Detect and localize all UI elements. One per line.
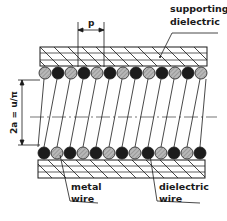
diameter-label: 2a = u/π: [9, 91, 19, 134]
metal-wire: [38, 147, 50, 159]
helix-waveguide-diagram: p 2a = u/π supporting dielectric metal w…: [0, 0, 227, 221]
supporting-dielectric-label-2: dielectric: [170, 16, 220, 27]
metal-wire-label-2: wire: [71, 193, 94, 204]
metal-wire: [194, 147, 206, 159]
metal-wire: [116, 147, 128, 159]
metal-wire: [64, 147, 76, 159]
metal-wire: [52, 67, 64, 79]
metal-wire: [142, 147, 154, 159]
metal-wire-label-1: metal: [71, 181, 102, 192]
metal-wire: [182, 67, 194, 79]
dielectric-wire-label-2: wire: [159, 193, 182, 204]
supporting-dielectric-bottom: [34, 160, 206, 178]
metal-wire: [168, 147, 180, 159]
helix-lines: [38, 79, 206, 147]
diameter-dimension: [18, 80, 40, 145]
dielectric-wire-label-1: dielectric: [159, 181, 209, 192]
supporting-dielectric-top: [26, 47, 213, 66]
bottom-wire-row: [38, 147, 206, 159]
metal-wire: [104, 67, 116, 79]
metal-wire: [90, 147, 102, 159]
metal-wire: [78, 67, 90, 79]
pitch-label: p: [88, 18, 95, 28]
metal-wire: [130, 67, 142, 79]
supporting-dielectric-label-1: supporting: [170, 3, 227, 14]
metal-wire: [156, 67, 168, 79]
